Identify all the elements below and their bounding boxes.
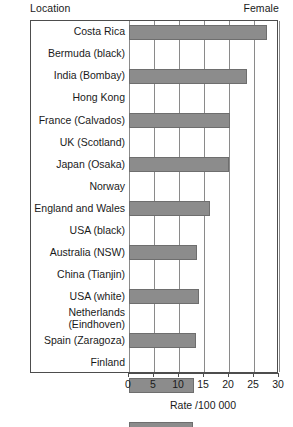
x-tick-label: 30 [272,378,284,390]
x-tick-5 [153,373,154,377]
bar-row: Spain (Zaragoza) [31,330,277,352]
bar-row: Hong Kong [31,87,277,109]
bar-rows: Costa RicaBermuda (black)India (Bombay)H… [31,21,277,372]
column-header-location: Location [30,2,71,14]
category-label: France (Calvados) [0,115,129,127]
bar-row: Norway [31,175,277,197]
bar-row: UK (Scotland) [31,131,277,153]
x-tick-label: 10 [172,378,184,390]
bar-row: Australia (NSW) [31,242,277,264]
x-tick-10 [178,373,179,377]
category-label: USA (white) [0,291,129,303]
bar-row: USA (white) [31,286,277,308]
x-tick-label: 5 [150,378,156,390]
legend-label-female: Female [243,2,279,14]
category-label: Costa Rica [0,26,129,38]
bar [129,422,193,427]
category-label: Hong Kong [0,92,129,104]
bar-row: USA (black) [31,220,277,242]
category-label: Japan (Osaka) [0,159,129,171]
x-tick-0 [128,373,129,377]
gridline-30 [279,21,280,372]
category-label: China (Tianjin) [0,269,129,281]
x-axis-title: Rate /100 000 [128,399,278,411]
bar-row: Japan (Osaka) [31,153,277,175]
x-tick-label: 15 [197,378,209,390]
category-label: Finland [0,357,129,369]
x-tick-label: 25 [247,378,259,390]
bar-row: Bermuda (black) [31,43,277,65]
bar-row: China (Tianjin) [31,264,277,286]
x-tick-15 [203,373,204,377]
x-tick-label: 0 [125,378,131,390]
bar-row: Costa Rica [31,21,277,43]
category-label: Netherlands (Eindhoven) [0,307,129,330]
category-label: Bermuda (black) [0,48,129,60]
x-tick-25 [253,373,254,377]
bar-row: India (Bombay) [31,65,277,87]
plot-frame: Costa RicaBermuda (black)India (Bombay)H… [30,20,278,373]
category-label: Australia (NSW) [0,247,129,259]
category-label: Spain (Zaragoza) [0,335,129,347]
bar-chart-figure: Location Female Costa RicaBermuda (black… [0,0,293,427]
x-tick-label: 20 [222,378,234,390]
x-tick-30 [278,373,279,377]
bar-row: France (Calvados) [31,109,277,131]
category-label: India (Bombay) [0,70,129,82]
bar-row: Netherlands (Eindhoven) [31,308,277,330]
category-label: England and Wales [0,203,129,215]
category-label: Norway [0,181,129,193]
x-tick-20 [228,373,229,377]
category-label: UK (Scotland) [0,137,129,149]
category-label: USA (black) [0,225,129,237]
bar-row: Finland [31,352,277,374]
bar-row: England and Wales [31,198,277,220]
bar [129,25,267,40]
bar [129,378,194,393]
